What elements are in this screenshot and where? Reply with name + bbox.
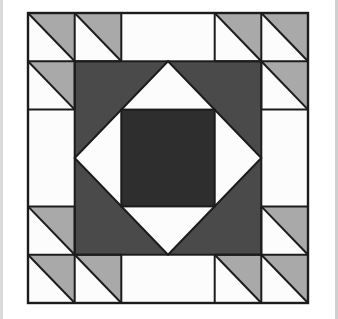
quilt-block-canvas bbox=[0, 0, 338, 319]
block-body bbox=[28, 13, 308, 303]
center-darkest-square bbox=[121, 110, 214, 207]
page-left-edge bbox=[0, 0, 3, 319]
quilt-block-figure bbox=[0, 0, 338, 319]
